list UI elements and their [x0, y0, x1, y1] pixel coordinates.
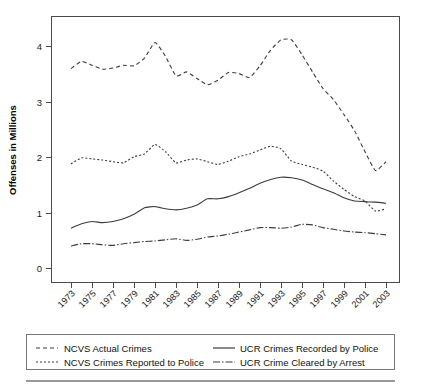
legend-label-3: UCR Crime Cleared by Arrest [240, 357, 365, 368]
chart-background [0, 0, 421, 386]
y-axis-title: Offenses in Millions [7, 105, 18, 195]
y-tick-label: 3 [37, 97, 42, 108]
legend-label-0: NCVS Actual Crimes [64, 343, 152, 354]
y-tick-label: 1 [37, 208, 42, 219]
offenses-line-chart: Offenses in Millions 01234 1973197519771… [0, 0, 421, 386]
legend-label-2: UCR Crimes Recorded by Police [240, 343, 378, 354]
y-tick-label: 2 [37, 152, 42, 163]
y-tick-label: 0 [37, 263, 42, 274]
chart-figure: Offenses in Millions 01234 1973197519771… [0, 0, 421, 386]
y-tick-label: 4 [37, 41, 42, 52]
legend-label-1: NCVS Crimes Reported to Police [64, 357, 204, 368]
